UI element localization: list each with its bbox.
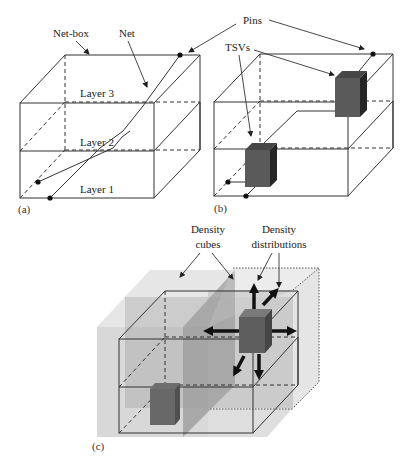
density-distributions-label-1: Density: [262, 223, 297, 235]
pins-label: Pins: [243, 14, 262, 26]
net-box-leader: [76, 41, 89, 54]
net-label: Net: [119, 27, 135, 39]
density-distributions-label-2: distributions: [251, 238, 306, 250]
layer3-label: Layer 3: [80, 87, 114, 99]
pins-callout: Pins: [189, 14, 364, 52]
tsv-upper-front: [335, 78, 360, 117]
tsvs-label: TSVs: [225, 41, 250, 53]
panel-a-caption: (a): [18, 203, 31, 216]
pin-bottom: [47, 195, 52, 200]
pin-mid: [35, 179, 40, 184]
tsv-cube-lower-c: [150, 383, 180, 425]
density-cubes-label-2: cubes: [195, 238, 220, 250]
tsv-lower-side: [270, 143, 277, 187]
pin-top: [177, 52, 182, 57]
pin-bottom-b: [243, 193, 248, 198]
net-route: [38, 55, 180, 198]
tsv-upper: [335, 71, 367, 117]
density-cubes-label-1: Density: [191, 223, 226, 235]
net-box-label: Net-box: [53, 27, 90, 39]
tsv-cube-center-c: [239, 309, 272, 353]
tsv-lower-front: [245, 150, 270, 187]
pins-leader-b: [269, 20, 364, 49]
layer2-label: Layer 2: [80, 136, 114, 148]
net-leader: [128, 41, 147, 87]
panel-c-caption: (c): [92, 440, 105, 453]
pin-top-b: [370, 51, 375, 56]
tsv-upper-side: [360, 71, 367, 117]
tsv-lower: [245, 143, 277, 187]
tsvs-leader-lower: [239, 55, 251, 136]
panel-b: TSVs (b): [214, 41, 393, 215]
pin-mid-b: [225, 179, 230, 184]
panel-a: Layer 3 Layer 2 Layer 1 Net-box Net (a): [18, 27, 200, 216]
panel-b-caption: (b): [214, 202, 227, 215]
density-overlap-front: [183, 327, 208, 437]
figure-canvas: Layer 3 Layer 2 Layer 1 Net-box Net (a) …: [0, 0, 414, 471]
net-box-visible-edges: [20, 55, 200, 198]
panel-c: Density cubes Density distributions (c): [92, 223, 319, 453]
layer1-label: Layer 1: [80, 183, 114, 195]
net-box-hidden-edges: [20, 55, 200, 198]
